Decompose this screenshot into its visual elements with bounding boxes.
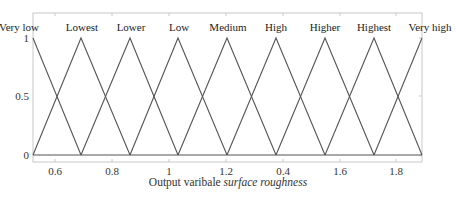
label-lower: Lower [117, 21, 146, 33]
x-axis-label-prefix: Output varibale [149, 176, 224, 188]
mf-low [130, 38, 227, 155]
label-high: High [265, 21, 288, 33]
y-tick-1: 1 [24, 32, 30, 44]
mf-high [227, 38, 325, 155]
mf-medium [178, 38, 276, 155]
label-higher: Higher [310, 21, 341, 33]
label-very-low: Very low [0, 21, 39, 33]
y-tick-0.5: 0.5 [15, 90, 29, 102]
label-very-high: Very high [408, 21, 452, 33]
label-highest: Highest [357, 21, 391, 33]
membership-function-chart: Very low Lowest Lower Low Medium High Hi… [0, 0, 456, 197]
membership-lines [33, 38, 422, 155]
label-lowest: Lowest [66, 21, 98, 33]
axes-box [33, 13, 422, 162]
mf-lower [81, 38, 178, 155]
label-low: Low [169, 21, 189, 33]
x-axis-label: Output varibale surface roughness [0, 176, 456, 188]
mf-higher [276, 38, 374, 155]
label-medium: Medium [209, 21, 247, 33]
mf-highest [325, 38, 422, 155]
mf-lowest [33, 38, 130, 155]
x-axis-label-italic: surface roughness [224, 176, 308, 188]
y-tick-0: 0 [24, 149, 30, 161]
